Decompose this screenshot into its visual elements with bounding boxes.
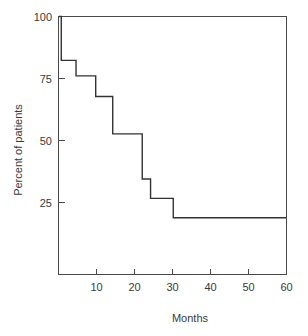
chart-canvas: 100 75 50 25 10 20 30 40 50 60 Months Pe… [0,0,308,336]
chart-background [0,0,308,336]
x-tick-label-50: 50 [242,281,254,293]
y-tick-label-100: 100 [34,11,52,23]
x-tick-label-30: 30 [166,281,178,293]
y-axis-title: Percent of patients [12,104,24,196]
y-tick-label-75: 75 [40,73,52,85]
y-tick-label-50: 50 [40,135,52,147]
y-tick-label-25: 25 [40,197,52,209]
x-axis-title: Months [172,312,209,324]
x-tick-label-10: 10 [90,281,102,293]
x-tick-label-20: 20 [128,281,140,293]
survival-chart-figure: 100 75 50 25 10 20 30 40 50 60 Months Pe… [0,0,308,336]
x-tick-label-40: 40 [204,281,216,293]
x-tick-label-60: 60 [280,281,292,293]
